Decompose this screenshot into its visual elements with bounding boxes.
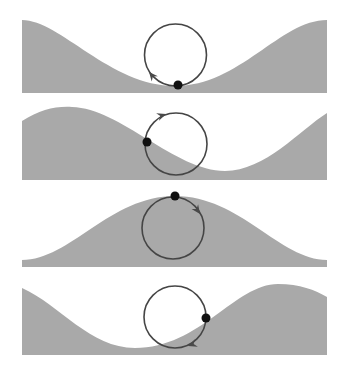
wave-profile	[22, 196, 327, 267]
water-particle-dot	[143, 138, 152, 147]
wave-profile	[22, 284, 327, 355]
water-particle-dot	[171, 192, 180, 201]
orbit-circle	[145, 24, 207, 86]
panel-4	[22, 284, 327, 355]
panel-1	[22, 20, 327, 93]
orbit-circle	[144, 286, 206, 348]
wave-orbit-diagram	[0, 0, 342, 375]
water-particle-dot	[202, 314, 211, 323]
wave-profile	[22, 20, 327, 93]
panel-3	[22, 192, 327, 268]
water-particle-dot	[174, 81, 183, 90]
diagram-canvas	[0, 0, 342, 375]
panel-2	[22, 107, 327, 180]
wave-profile	[22, 107, 327, 180]
